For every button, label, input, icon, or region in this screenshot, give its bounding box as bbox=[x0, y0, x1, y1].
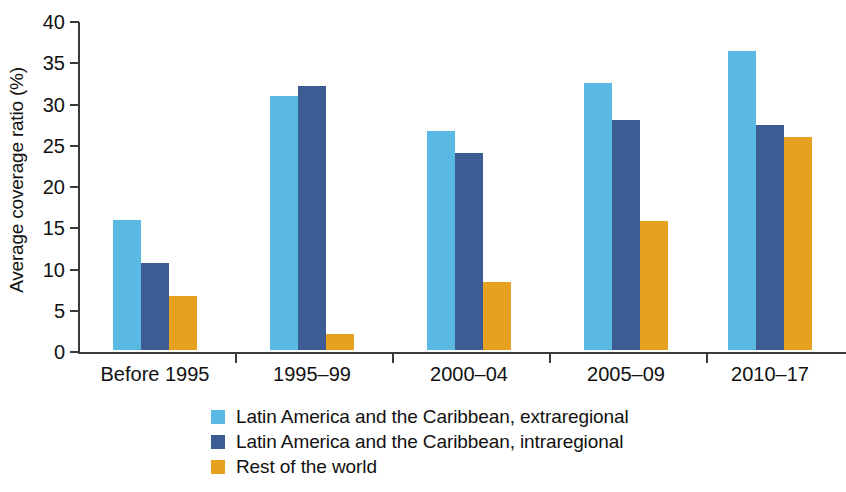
y-axis-tick-mark bbox=[70, 104, 79, 106]
y-axis-tick-label: 5 bbox=[54, 299, 65, 322]
legend-item-label: Latin America and the Caribbean, extrare… bbox=[236, 406, 629, 428]
x-axis-tick-mark bbox=[549, 352, 551, 363]
legend-item[interactable]: Latin America and the Caribbean, intrare… bbox=[211, 429, 629, 454]
legend-color-swatch-icon bbox=[211, 435, 225, 449]
legend-color-swatch-icon bbox=[211, 410, 225, 424]
y-axis-tick-label: 30 bbox=[43, 93, 65, 116]
bar[interactable] bbox=[326, 334, 354, 350]
bar-group bbox=[427, 20, 511, 350]
bar[interactable] bbox=[784, 137, 812, 350]
bar[interactable] bbox=[113, 220, 141, 350]
x-axis-tick-label: Before 1995 bbox=[101, 363, 210, 386]
bar-group bbox=[584, 20, 668, 350]
y-axis-tick-label: 25 bbox=[43, 134, 65, 157]
y-axis-tick-label: 35 bbox=[43, 52, 65, 75]
y-axis-tick-mark bbox=[70, 145, 79, 147]
bar-group bbox=[113, 20, 197, 350]
plot-area: 0510152025303540 bbox=[78, 22, 846, 352]
bar[interactable] bbox=[169, 296, 197, 350]
legend-item[interactable]: Latin America and the Caribbean, extrare… bbox=[211, 404, 629, 429]
x-axis-labels: Before 19951995–992000–042005–092010–17 bbox=[78, 363, 846, 393]
bar[interactable] bbox=[455, 153, 483, 350]
x-axis-tick-label: 2000–04 bbox=[430, 363, 508, 386]
y-axis-tick-mark bbox=[70, 186, 79, 188]
x-axis-tick-mark bbox=[235, 352, 237, 363]
legend-color-swatch-icon bbox=[211, 460, 225, 474]
legend-item-label: Latin America and the Caribbean, intrare… bbox=[236, 431, 623, 453]
bar[interactable] bbox=[141, 263, 169, 350]
y-axis-tick-label: 15 bbox=[43, 217, 65, 240]
bar[interactable] bbox=[728, 51, 756, 350]
x-axis-tick-mark bbox=[392, 352, 394, 363]
bar[interactable] bbox=[270, 96, 298, 350]
bar-chart-figure: Average coverage ratio (%) 0510152025303… bbox=[0, 0, 846, 492]
x-axis-line bbox=[78, 352, 846, 354]
bar[interactable] bbox=[427, 131, 455, 350]
y-axis-tick-mark bbox=[70, 269, 79, 271]
y-axis-tick-label: 10 bbox=[43, 258, 65, 281]
x-axis-tick-label: 2005–09 bbox=[587, 363, 665, 386]
bar-group bbox=[728, 20, 812, 350]
bar[interactable] bbox=[483, 282, 511, 350]
bar[interactable] bbox=[756, 125, 784, 350]
y-axis-tick-mark bbox=[70, 351, 79, 353]
bar[interactable] bbox=[612, 120, 640, 350]
y-axis-tick-label: 0 bbox=[54, 341, 65, 364]
x-axis-tick-label: 2010–17 bbox=[731, 363, 809, 386]
x-axis-tick-mark bbox=[706, 352, 708, 363]
bar[interactable] bbox=[298, 86, 326, 350]
y-axis-tick-mark bbox=[70, 62, 79, 64]
y-axis-title: Average coverage ratio (%) bbox=[0, 0, 34, 360]
legend-item-label: Rest of the world bbox=[236, 456, 377, 478]
y-axis-title-text: Average coverage ratio (%) bbox=[6, 67, 28, 293]
legend-item[interactable]: Rest of the world bbox=[211, 454, 629, 479]
bar[interactable] bbox=[584, 83, 612, 350]
x-axis-tick-label: 1995–99 bbox=[273, 363, 351, 386]
bar-group bbox=[270, 20, 354, 350]
chart-legend: Latin America and the Caribbean, extrare… bbox=[211, 404, 629, 479]
bar[interactable] bbox=[640, 221, 668, 350]
y-axis-tick-label: 40 bbox=[43, 11, 65, 34]
y-axis-tick-mark bbox=[70, 21, 79, 23]
y-axis-tick-mark bbox=[70, 227, 79, 229]
y-axis-tick-label: 20 bbox=[43, 176, 65, 199]
y-axis-tick-mark bbox=[70, 310, 79, 312]
